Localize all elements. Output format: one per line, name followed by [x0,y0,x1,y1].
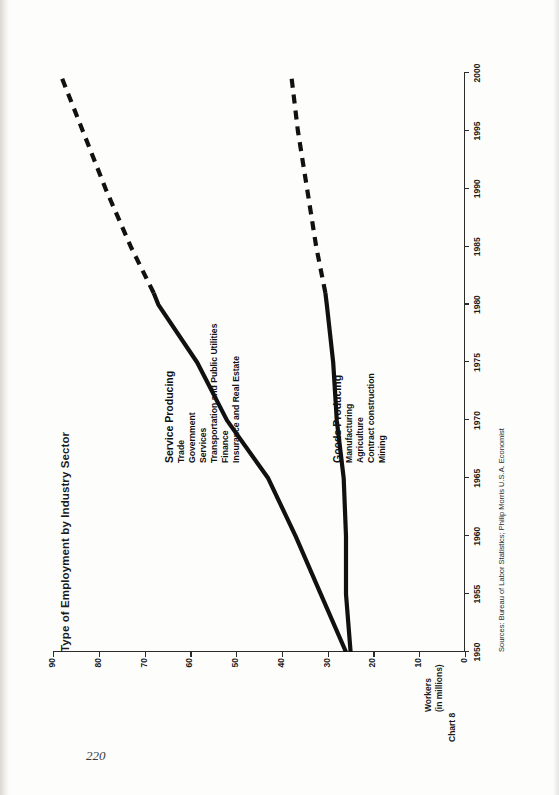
legend-goods-producing: Goods Producing ManufacturingAgriculture… [331,373,388,463]
x-axis-tick-label: 1960 [472,521,482,551]
rotated-figure-wrapper: Type of Employment by Industry Sector Ch… [0,0,559,795]
y-axis-tick-label: 90 [47,658,57,678]
x-axis-tick-label: 1955 [472,579,482,609]
sources-note: Sources: Bureau of Labor Statistics; Phi… [497,428,506,652]
y-axis-tick [144,652,145,657]
legend-service-producing: Service Producing TradeGovernmentService… [163,323,242,462]
legend-service-item-4: Finance [220,323,231,462]
y-axis-tick [190,652,191,657]
series-line-service-projected [59,73,153,293]
legend-goods-heading: Goods Producing [331,373,344,463]
series-line-goods-projected [291,73,325,293]
legend-goods-item-1: Agriculture [355,373,366,463]
y-axis-caption-line1: Workers [423,664,434,712]
legend-goods-item-3: Mining [377,373,388,463]
y-axis-tick-label: 10 [413,658,423,678]
y-axis-tick [281,652,282,657]
legend-service-items: TradeGovernmentServicesTransportation an… [176,323,242,462]
x-axis-tick-label: 1975 [472,347,482,377]
y-axis-tick-label: 60 [184,658,194,678]
y-axis-caption: Workers (in millions) [423,664,445,712]
x-axis-tick-label: 1980 [472,289,482,319]
legend-service-item-1: Government [187,323,198,462]
legend-service-heading: Service Producing [163,323,176,462]
page-number: 220 [86,748,106,764]
y-axis-tick-label: 30 [321,658,331,678]
legend-goods-items: ManufacturingAgricultureContract constru… [344,373,388,463]
book-page: Type of Employment by Industry Sector Ch… [0,0,559,795]
chart-figure: Type of Employment by Industry Sector Ch… [45,48,515,748]
chart-number-label: Chart 8 [447,712,457,741]
legend-service-item-3: Transportation and Public Utilities [209,323,220,462]
x-axis-tick-label: 1995 [472,115,482,145]
y-axis-tick [236,652,237,657]
y-axis-tick [98,652,99,657]
y-axis-tick [53,652,54,657]
legend-goods-item-2: Contract construction [366,373,377,463]
y-axis-tick-label: 40 [275,658,285,678]
x-axis-tick-label: 1990 [472,173,482,203]
x-axis-tick-label: 1965 [472,463,482,493]
y-axis-tick [419,652,420,657]
series-lines [53,73,465,652]
y-axis-tick-label: 20 [367,658,377,678]
x-axis-tick-label: 1970 [472,405,482,435]
x-axis-tick-label: 1985 [472,231,482,261]
y-axis-caption-line2: (in millions) [434,664,445,712]
y-axis-tick [327,652,328,657]
y-axis-tick-label: 70 [138,658,148,678]
y-axis-tick [465,652,466,657]
x-axis-tick-label: 2000 [472,58,482,88]
y-axis-tick-label: 0 [459,658,469,678]
series-line-goods-actual [325,293,350,652]
legend-goods-item-0: Manufacturing [344,373,355,463]
y-axis-tick-label: 80 [92,658,102,678]
legend-service-item-0: Trade [176,323,187,462]
legend-service-item-5: Insurance and Real Estate [231,323,242,462]
y-axis-tick-label: 50 [230,658,240,678]
legend-service-item-2: Services [198,323,209,462]
y-axis-tick [373,652,374,657]
plot-area: 0102030405060708090 19501955196019651970… [53,73,465,652]
x-axis-tick-label: 1950 [472,637,482,667]
